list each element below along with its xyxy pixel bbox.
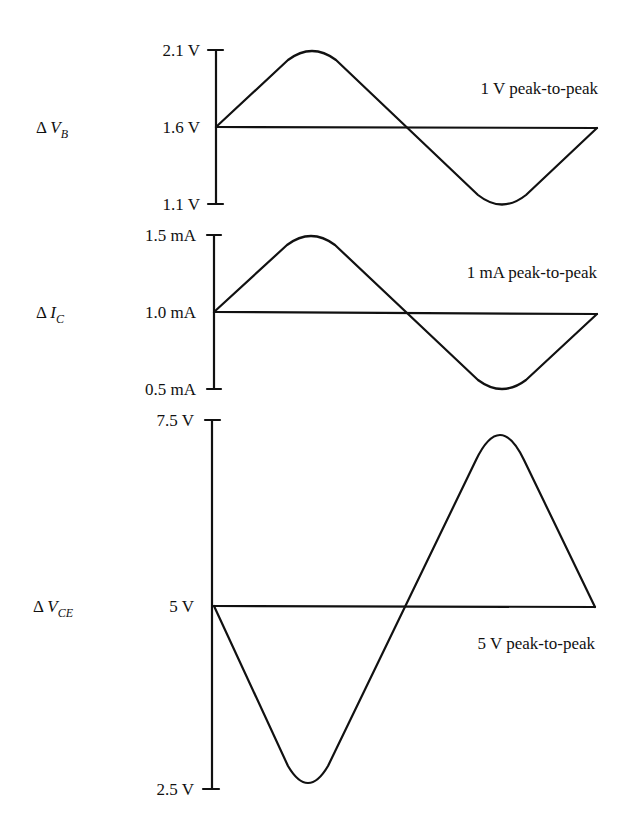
tick-top-ic: 1.5 mA bbox=[145, 226, 197, 245]
quantity-label-vce: Δ VCE bbox=[33, 597, 74, 620]
tick-top-vce: 7.5 V bbox=[157, 411, 195, 430]
tick-mid-ic: 1.0 mA bbox=[145, 303, 197, 322]
annotation-ic: 1 mA peak-to-peak bbox=[467, 263, 598, 282]
tick-top-vb: 2.1 V bbox=[163, 41, 201, 60]
annotation-vce: 5 V peak-to-peak bbox=[478, 634, 596, 653]
waveform-figure: Δ VB 2.1 V 1.6 V 1.1 V 1 V peak-to-peak … bbox=[0, 0, 630, 834]
panel-vb: Δ VB 2.1 V 1.6 V 1.1 V 1 V peak-to-peak bbox=[36, 41, 598, 214]
quantity-label-vb: Δ VB bbox=[36, 118, 69, 141]
panel-ic: Δ IC 1.5 mA 1.0 mA 0.5 mA 1 mA peak-to-p… bbox=[36, 226, 597, 399]
panel-vce: Δ VCE 7.5 V 5 V 2.5 V 5 V peak-to-peak bbox=[33, 411, 595, 799]
tick-bottom-ic: 0.5 mA bbox=[145, 380, 197, 399]
tick-bottom-vb: 1.1 V bbox=[163, 195, 201, 214]
annotation-vb: 1 V peak-to-peak bbox=[481, 79, 599, 98]
tick-mid-vb: 1.6 V bbox=[163, 118, 201, 137]
waveform-vce bbox=[214, 435, 595, 783]
quantity-label-ic: Δ IC bbox=[36, 303, 65, 326]
tick-mid-vce: 5 V bbox=[169, 597, 194, 616]
tick-bottom-vce: 2.5 V bbox=[157, 780, 195, 799]
